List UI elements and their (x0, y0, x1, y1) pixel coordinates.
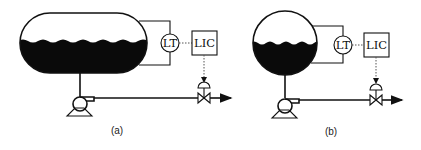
diagram-a: LT LIC (a) (18, 13, 231, 136)
pump-base (67, 108, 92, 116)
control-valve (370, 84, 382, 105)
diagram-b: LT LIC (b) (250, 11, 402, 137)
level-control-diagrams: LT LIC (a) (0, 0, 421, 150)
lt-label: LT (336, 38, 351, 52)
caption-a: (a) (111, 125, 123, 136)
lower-tap-line (311, 54, 343, 63)
pump-discharge-nozzle (285, 99, 299, 103)
level-controller: LIC (192, 31, 217, 55)
level-transmitter: LT (161, 34, 179, 52)
level-controller: LIC (364, 33, 389, 57)
pump-casing (73, 97, 87, 111)
centrifugal-pump (272, 99, 299, 118)
centrifugal-pump (67, 97, 94, 116)
lic-label: LIC (366, 38, 387, 52)
lic-label: LIC (194, 36, 215, 50)
pump-base (272, 110, 297, 118)
spherical-tank (250, 11, 322, 80)
valve-actuator (198, 82, 210, 88)
pump-casing (278, 99, 292, 113)
valve-actuator (370, 84, 382, 90)
control-valve (198, 82, 210, 103)
horizontal-tank (18, 13, 158, 76)
lt-label: LT (163, 36, 178, 50)
pump-discharge-nozzle (80, 97, 94, 101)
caption-b: (b) (325, 126, 337, 137)
level-transmitter: LT (334, 36, 352, 54)
